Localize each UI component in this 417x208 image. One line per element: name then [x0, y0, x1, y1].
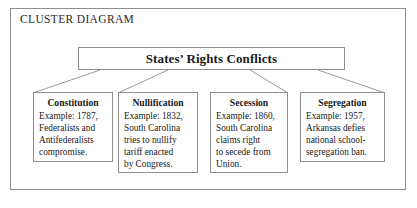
child-node-title: Secession — [216, 97, 282, 109]
child-node-body-line: national school- — [306, 134, 379, 146]
child-node-body-line: Example: 1860, — [216, 110, 282, 122]
child-node-body-line: to secede from — [216, 146, 282, 158]
child-node-body-line: Arkansas defies — [306, 122, 379, 134]
child-node-nullification: Nullification Example: 1832,South Caroli… — [118, 92, 198, 173]
child-node-body-line: Federalists and — [39, 122, 107, 134]
child-node-body-line: tries to nullify — [124, 134, 192, 146]
frame-label: CLUSTER DIAGRAM — [20, 13, 134, 25]
child-node-body-line: by Congress. — [124, 158, 192, 170]
child-node-title: Constitution — [39, 97, 107, 109]
cluster-diagram-screenshot: CLUSTER DIAGRAM States’ Rights Conflicts… — [0, 0, 417, 208]
child-node-body-line: South Carolina — [124, 122, 192, 134]
child-node-body: Example: 1957,Arkansas defiesnational sc… — [306, 110, 379, 158]
child-node-body-line: segregation ban. — [306, 146, 379, 158]
root-node: States’ Rights Conflicts — [78, 47, 345, 70]
child-node-body-line: Example: 1787, — [39, 110, 107, 122]
child-node-body-line: Example: 1832, — [124, 110, 192, 122]
child-node-body-line: Union. — [216, 158, 282, 170]
child-node-body-line: South Carolina — [216, 122, 282, 134]
child-node-body-line: compromise. — [39, 146, 107, 158]
child-node-secession: Secession Example: 1860,South Carolinacl… — [210, 92, 288, 173]
child-node-title: Segregation — [306, 97, 379, 109]
child-node-title: Nullification — [124, 97, 192, 109]
child-node-body-line: claims right — [216, 134, 282, 146]
root-node-title: States’ Rights Conflicts — [146, 51, 277, 67]
child-node-body-line: Example: 1957, — [306, 110, 379, 122]
child-node-body: Example: 1787,Federalists andAntifederal… — [39, 110, 107, 158]
child-node-constitution: Constitution Example: 1787,Federalists a… — [33, 92, 113, 162]
child-node-body-line: tariff enacted — [124, 146, 192, 158]
child-node-body-line: Antifederalists — [39, 134, 107, 146]
child-node-body: Example: 1860,South Carolinaclaims right… — [216, 110, 282, 170]
child-node-segregation: Segregation Example: 1957,Arkansas defie… — [300, 92, 385, 162]
child-node-body: Example: 1832,South Carolinatries to nul… — [124, 110, 192, 170]
